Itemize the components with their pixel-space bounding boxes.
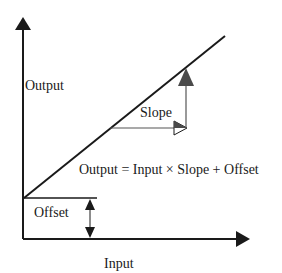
y-axis-arrow-icon	[15, 17, 31, 30]
offset-arrow-up-icon	[85, 199, 95, 210]
y-axis-label: Output	[25, 78, 64, 93]
offset-label: Offset	[34, 205, 69, 220]
slope-label: Slope	[140, 105, 172, 120]
equation-label: Output = Input × Slope + Offset	[79, 162, 259, 177]
x-axis-arrow-icon	[236, 231, 250, 247]
offset-arrow-down-icon	[85, 227, 95, 238]
linear-function-diagram: Output Input Slope Offset Output = Input…	[0, 0, 282, 273]
x-axis-label: Input	[104, 256, 134, 271]
